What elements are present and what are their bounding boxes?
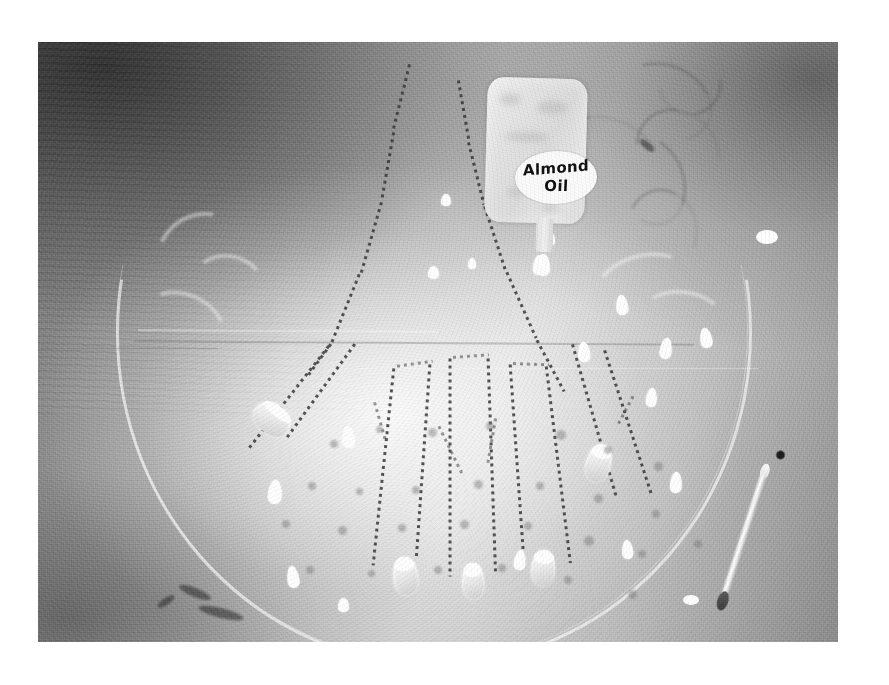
bottle-blotch [537, 100, 567, 115]
oil-droplet [338, 598, 349, 612]
oil-droplet [645, 387, 658, 407]
photographic-print: Almond Oil [0, 0, 889, 685]
oil-droplet [267, 480, 283, 505]
oil-droplet [441, 194, 451, 206]
almond-oil-bottle[interactable] [484, 77, 588, 225]
bottle-nozzle [536, 218, 554, 252]
oil-droplet [468, 258, 476, 269]
oil-droplet [577, 342, 590, 363]
bottle-blotch [499, 93, 521, 106]
bottle-label-line-1: Almond [523, 158, 589, 178]
bottle-label-line-2: Oil [544, 179, 569, 194]
bottle-blotch [504, 131, 548, 142]
oil-droplet [669, 472, 682, 494]
oil-droplet [699, 327, 714, 349]
oil-droplet [615, 294, 629, 315]
oil-droplet [341, 426, 356, 449]
bottle-blotch [540, 204, 560, 213]
white-highlight-blob [756, 230, 778, 244]
oil-droplet [428, 266, 439, 279]
oil-droplet [621, 540, 634, 560]
dark-dot-mark [775, 450, 786, 460]
oil-droplet [513, 549, 527, 570]
photo-plate: Almond Oil [38, 42, 838, 642]
oil-droplets-layer [38, 42, 838, 642]
oil-droplet [286, 565, 301, 588]
oil-droplet [659, 337, 674, 359]
white-highlight-blob [683, 595, 699, 605]
